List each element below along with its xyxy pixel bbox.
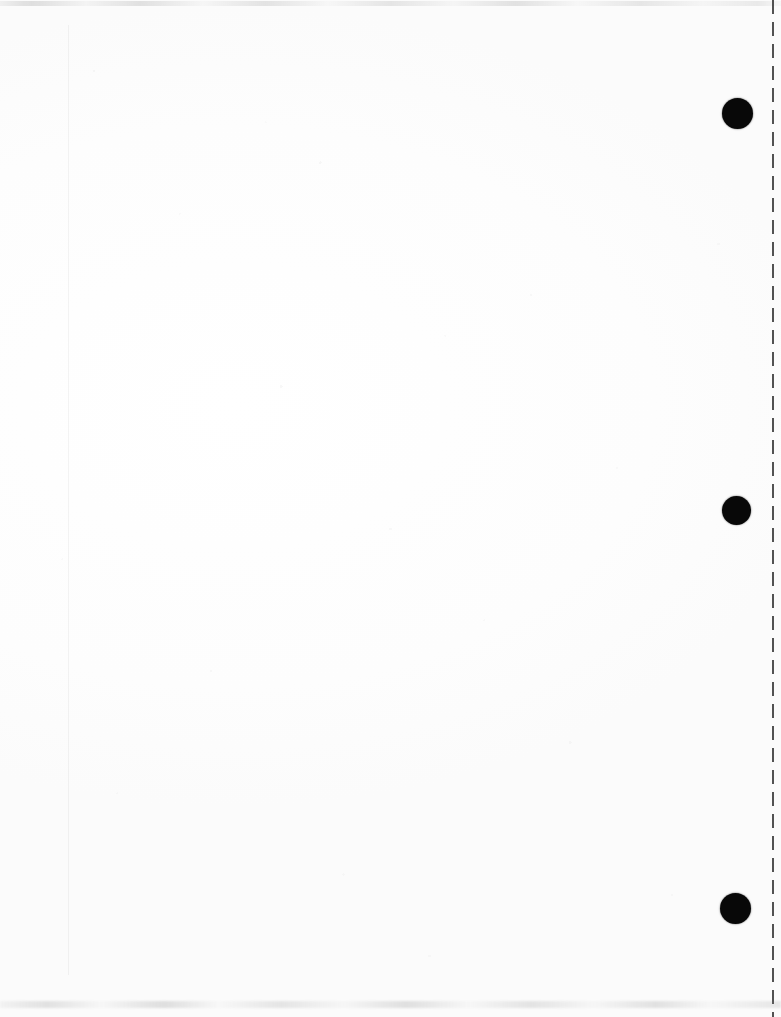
bottom-edge-smudge xyxy=(0,1001,781,1008)
top-edge-smudge xyxy=(0,1,781,6)
perforation-line xyxy=(772,0,774,1017)
page-body-text xyxy=(80,40,720,960)
left-margin-rule xyxy=(68,25,69,975)
punch-hole-bottom xyxy=(720,893,751,924)
punch-hole-middle xyxy=(722,496,751,525)
scanned-page xyxy=(0,0,781,1017)
punch-hole-top xyxy=(722,98,753,129)
